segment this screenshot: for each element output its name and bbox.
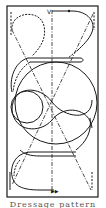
left-arc-dashed: [13, 62, 30, 92]
center-circle: [15, 62, 97, 144]
diagonal-left: [12, 30, 91, 190]
serpentine-lower: [12, 152, 76, 190]
arena-figure-diagram: V ▶▶: [0, 0, 106, 200]
start-marker: V: [47, 8, 52, 15]
half-turn-right: [52, 11, 93, 50]
half-turn-right-dashed: [68, 50, 78, 58]
diagonal-right: [12, 14, 93, 185]
figure-caption: Dressage pattern: [0, 201, 106, 208]
left-circle: [11, 91, 43, 123]
top-dot-marker: [68, 10, 70, 12]
arena-frame: [7, 6, 98, 197]
teardrop-loop: [12, 14, 45, 56]
end-marker: ▶▶: [51, 188, 59, 194]
s-curve-lower: [12, 110, 92, 129]
upper-crossbar: [28, 58, 83, 62]
lower-bar: [20, 150, 76, 156]
